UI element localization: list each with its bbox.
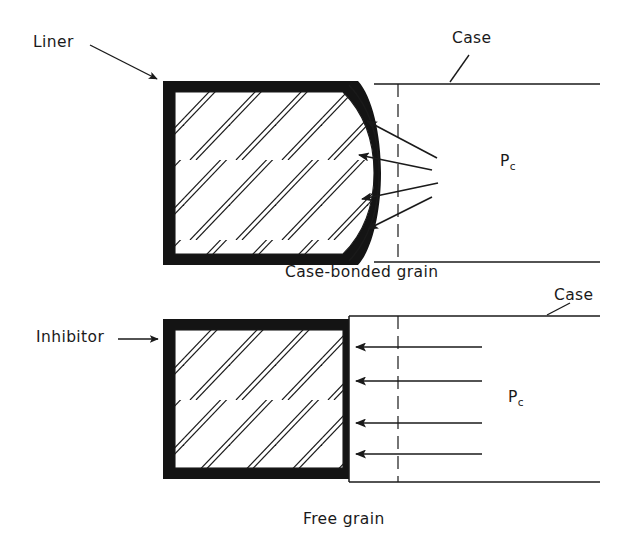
pc-symbol-top: P <box>500 152 510 170</box>
caption-case-bonded-grain: Case-bonded grain <box>285 263 438 281</box>
label-case-bottom: Case <box>554 286 594 304</box>
propellant-grain-bottom <box>175 330 343 468</box>
label-pc-top: Pc <box>500 152 516 172</box>
pc-subscript-top: c <box>510 160 516 172</box>
propellant-grain-top <box>175 92 374 254</box>
liner-leader-line <box>90 45 157 79</box>
label-liner: Liner <box>33 33 74 51</box>
pc-subscript-bottom: c <box>518 396 524 408</box>
diagram-canvas: Liner Case Pc Case-bonded grain Inhibito… <box>0 0 633 553</box>
caption-free-grain: Free grain <box>303 510 385 528</box>
pc-symbol-bottom: P <box>508 388 518 406</box>
case-bottom-leader-line <box>547 303 570 315</box>
label-case-top: Case <box>452 29 492 47</box>
label-inhibitor: Inhibitor <box>36 328 104 346</box>
case-top-leader-line <box>450 55 469 82</box>
label-pc-bottom: Pc <box>508 388 524 408</box>
